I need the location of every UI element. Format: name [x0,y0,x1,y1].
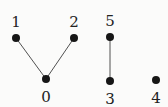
node-label-4: 4 [151,89,161,107]
node-dot-0 [42,75,50,83]
node-label-3: 3 [105,90,115,107]
edge-2-0 [46,38,74,79]
node-dot-4 [152,76,160,84]
node-dot-1 [12,34,20,42]
node-label-5: 5 [105,12,115,30]
graph-diagram: 012345 [0,0,168,107]
node-dot-3 [106,77,114,85]
node-label-2: 2 [69,13,79,31]
node-dot-2 [70,34,78,42]
node-dot-5 [106,33,114,41]
edge-1-0 [16,38,46,79]
node-label-0: 0 [41,88,51,106]
graph-svg: 012345 [0,0,168,107]
node-label-1: 1 [11,13,21,31]
